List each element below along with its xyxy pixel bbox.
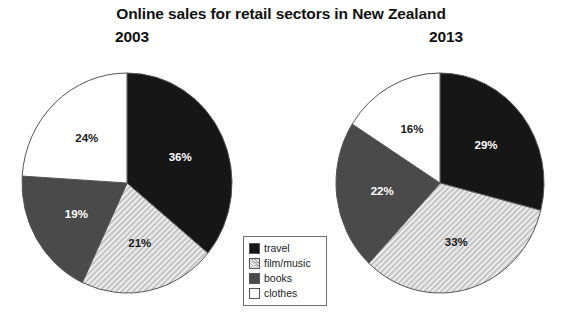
pie-slice-label-travel-2003: 36% xyxy=(169,151,192,163)
legend-item-travel: travel xyxy=(249,241,322,256)
pie-slice-label-clothes-2013: 16% xyxy=(400,123,423,135)
clothes-swatch-icon xyxy=(249,288,260,299)
pie-chart-2003-svg: 36% 21% 19% 24% xyxy=(20,72,234,296)
film-music-swatch-icon xyxy=(249,258,260,269)
page-title: Online sales for retail sectors in New Z… xyxy=(0,5,562,23)
pie-slice-label-film-music-2013: 33% xyxy=(445,236,468,248)
pie-slice-label-books-2013: 22% xyxy=(371,185,394,197)
pie-slice-label-travel-2013: 29% xyxy=(475,139,498,151)
legend-label-clothes: clothes xyxy=(264,287,297,300)
pie-slice-clothes-2003 xyxy=(22,73,127,183)
chart-legend: travel film/music books clothes xyxy=(243,236,327,306)
pie-slices-2013 xyxy=(336,73,544,293)
books-swatch-icon xyxy=(249,273,260,284)
pie-slices-2003 xyxy=(22,73,232,293)
pie-chart-2013-svg: 29% 33% 22% 16% xyxy=(334,72,547,296)
chart-label-2013: 2013 xyxy=(418,28,474,46)
chart-label-2003: 2003 xyxy=(104,28,160,46)
legend-label-film-music: film/music xyxy=(264,257,311,270)
pie-chart-2003: 36% 21% 19% 24% xyxy=(20,72,234,296)
legend-label-books: books xyxy=(264,272,292,285)
travel-swatch-icon xyxy=(249,243,260,254)
legend-item-clothes: clothes xyxy=(249,286,322,301)
pie-chart-2013: 29% 33% 22% 16% xyxy=(334,72,547,296)
legend-item-film-music: film/music xyxy=(249,256,322,271)
pie-slice-label-clothes-2003: 24% xyxy=(75,132,98,144)
pie-slice-label-film-music-2003: 21% xyxy=(128,237,151,249)
legend-item-books: books xyxy=(249,271,322,286)
legend-label-travel: travel xyxy=(264,242,290,255)
pie-slice-label-books-2003: 19% xyxy=(65,208,88,220)
